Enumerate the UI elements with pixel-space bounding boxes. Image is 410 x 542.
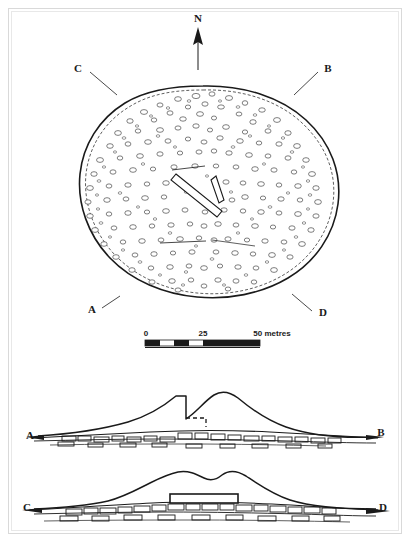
scale-tick-25: 25 xyxy=(199,329,208,338)
site-plan-figure: N C B A D xyxy=(0,0,410,542)
scale-seg-1 xyxy=(145,340,160,346)
plan-label-b: B xyxy=(324,62,332,74)
cairn-outline xyxy=(80,86,339,298)
section-cd-label-c: C xyxy=(23,501,31,513)
section-ab-label-b: B xyxy=(377,426,385,438)
plan-label-c: C xyxy=(74,62,82,74)
figure-root: N C B A D xyxy=(0,0,410,542)
section-cd-chamber xyxy=(170,494,238,503)
cairn-plan xyxy=(80,86,339,298)
scale-seg-3 xyxy=(203,340,260,346)
plan-label-d: D xyxy=(319,306,327,318)
scale-tick-0: 0 xyxy=(144,329,149,338)
scale-end-label: 50 metres xyxy=(253,329,291,338)
plan-label-a: A xyxy=(88,303,96,315)
north-label: N xyxy=(194,12,202,24)
scale-seg-2 xyxy=(174,340,189,346)
section-ab-label-a: A xyxy=(26,429,34,441)
